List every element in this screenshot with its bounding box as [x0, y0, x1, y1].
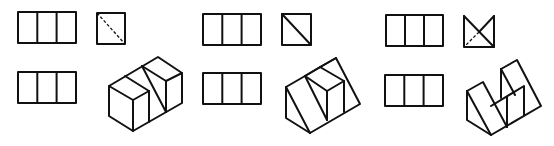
- group-1-top-view: [18, 72, 76, 103]
- group-1-side-view: [97, 13, 125, 44]
- group-3-side-view: [464, 16, 494, 47]
- group-1-front-view: [18, 12, 76, 43]
- group-3: [385, 15, 541, 135]
- orthographic-diagram: [0, 0, 554, 146]
- group-2-front-view: [203, 14, 261, 45]
- group-3-top-view: [385, 75, 443, 106]
- group-2-top-view: [203, 73, 261, 104]
- diagram-canvas: [0, 0, 554, 146]
- group-2-side-view: [282, 14, 311, 45]
- group-2-isometric: [286, 58, 360, 133]
- group-2: [203, 14, 360, 133]
- group-3-front-view: [386, 15, 443, 46]
- group-3-isometric: [467, 60, 541, 135]
- group-1-isometric: [109, 57, 182, 131]
- group-1: [18, 12, 182, 131]
